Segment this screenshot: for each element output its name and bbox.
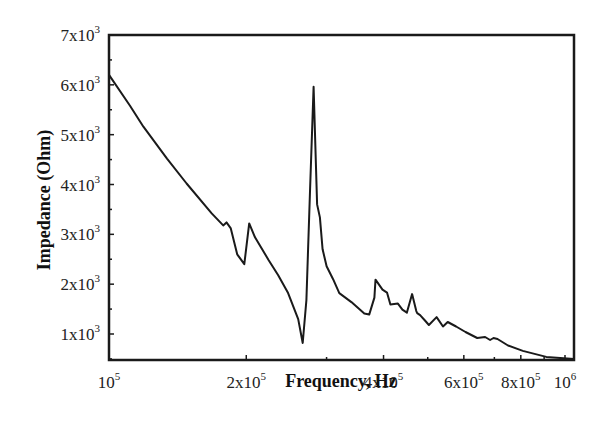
y-axis-title: Impedance (Ohm) <box>34 130 55 271</box>
x-tick-label: 6x105 <box>444 370 484 392</box>
impedance-series-line <box>109 75 574 359</box>
y-tick-label: 6x103 <box>61 73 101 95</box>
x-tick-label: 106 <box>554 370 577 392</box>
y-tick-label: 3x103 <box>61 222 101 244</box>
y-tick-label: 7x103 <box>61 23 101 45</box>
x-tick-label: 105 <box>98 370 121 392</box>
impedance-chart: 1x1032x1033x1034x1035x1036x1037x103 1052… <box>0 0 609 434</box>
plot-frame <box>109 35 574 360</box>
y-tick-label: 1x103 <box>61 322 101 344</box>
plot-border <box>109 35 574 360</box>
axis-ticks <box>109 35 565 360</box>
y-tick-label: 5x103 <box>61 123 101 145</box>
x-tick-label: 2x105 <box>227 370 267 392</box>
y-tick-label: 4x103 <box>61 173 101 195</box>
y-tick-labels: 1x1032x1033x1034x1035x1036x1037x103 <box>61 23 101 344</box>
y-tick-label: 2x103 <box>61 272 101 294</box>
x-tick-label: 8x105 <box>501 370 541 392</box>
x-axis-title: Frequency, Hz <box>285 371 397 391</box>
